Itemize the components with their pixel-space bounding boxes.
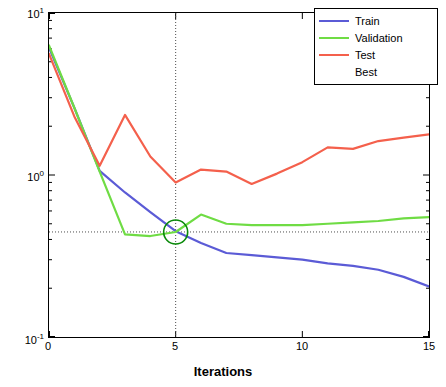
x-tick-10: 10 <box>282 340 322 352</box>
x-tick-0: 0 <box>28 340 68 352</box>
x-axis-tick-labels: 0 5 10 15 <box>0 340 446 360</box>
legend-label-best: Best <box>355 66 377 78</box>
legend-item-validation[interactable]: Validation <box>319 29 433 46</box>
legend: Train Validation Test Best <box>314 8 438 85</box>
y-axis-tick-labels: 101 100 10-1 <box>0 0 44 387</box>
legend-swatch-validation <box>319 37 349 39</box>
x-tick-15: 15 <box>409 340 446 352</box>
x-axis-title: Iterations <box>0 364 446 379</box>
legend-item-best[interactable]: Best <box>319 63 433 80</box>
legend-label-train: Train <box>355 15 380 27</box>
x-tick-5: 5 <box>155 340 195 352</box>
legend-swatch-best <box>319 71 349 73</box>
legend-label-test: Test <box>355 49 375 61</box>
legend-swatch-test <box>319 54 349 56</box>
legend-label-validation: Validation <box>355 32 403 44</box>
legend-item-test[interactable]: Test <box>319 46 433 63</box>
legend-swatch-train <box>319 20 349 22</box>
chart-container: Mean Squared Error 101 100 10-1 0 5 10 1… <box>0 0 446 387</box>
y-tick-10e0: 100 <box>2 169 44 183</box>
y-tick-10e1: 101 <box>2 6 44 20</box>
legend-item-train[interactable]: Train <box>319 12 433 29</box>
